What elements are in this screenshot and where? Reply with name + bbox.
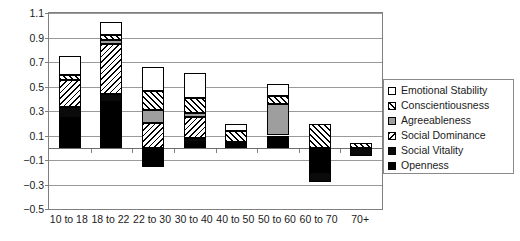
bar-group [299,13,341,209]
chart-legend: Emotional StabilityConscientiousnessAgre… [383,79,514,174]
bar-group [174,13,216,209]
y-axis-tick-label: 0.9 [29,32,44,43]
bar-segment [267,136,289,138]
bar-segment [225,124,247,130]
bar-segment [184,142,206,148]
y-axis-tick-label: 1.1 [29,8,44,19]
x-axis-label: 22 to 30 [133,214,171,225]
x-axis-label: 70+ [351,214,369,225]
legend-item[interactable]: Social Vitality [388,143,513,158]
bar-segment [225,142,247,144]
bar-segment [142,67,164,92]
y-axis-tick-label: 0.3 [29,106,44,117]
white-square-icon [388,87,396,95]
bar-segment [267,96,289,103]
bar-segment [309,148,331,173]
bar-segment [100,40,122,44]
bar-segment [59,107,81,118]
black-square-icon [388,162,396,170]
y-axis-tick-label: 0.5 [29,81,44,92]
bar-segment [100,22,122,35]
stacked-bar-chart: −0.5−0.3−0.10.10.30.50.70.91.1 10 to 181… [0,0,520,241]
plot-area: −0.5−0.3−0.10.10.30.50.70.91.1 [48,12,383,210]
legend-item-label: Social Vitality [401,145,463,156]
bar-group [216,13,258,209]
bar-group [132,13,174,209]
bar-segment [350,148,372,157]
bar-segment [225,144,247,146]
bar-segment [225,131,247,142]
x-axis-label: 10 to 18 [50,214,88,225]
x-axis-label: 18 to 22 [91,214,129,225]
y-axis-tick-label: −0.5 [23,204,44,215]
bar-segment [309,172,331,182]
bar-segment [267,137,289,148]
bar-group [91,13,133,209]
bar-segment [350,143,372,148]
y-axis-tick-label: −0.1 [23,155,44,166]
y-axis-tick-label: 0.7 [29,57,44,68]
stacked-bar[interactable] [142,13,164,209]
bar-segment [267,104,289,136]
bar-segment [184,98,206,114]
bar-segment [309,124,331,147]
legend-item-label: Emotional Stability [401,85,487,96]
stacked-bar[interactable] [100,13,122,209]
legend-item[interactable]: Emotional Stability [388,83,513,98]
legend-item-label: Openness [401,160,449,171]
bar-segment [184,117,206,138]
x-axis-label: 50 to 60 [258,214,296,225]
y-axis-tick-label: 0.1 [29,130,44,141]
legend-item-label: Agreeableness [401,115,471,126]
bar-segment [142,123,164,148]
bar-segment [59,75,81,80]
bar-segment [184,138,206,142]
bar-segment [100,94,122,103]
stacked-bar[interactable] [225,13,247,209]
gray-square-icon [388,117,396,125]
legend-item[interactable]: Social Dominance [388,128,513,143]
legend-item-label: Social Dominance [401,130,486,141]
stacked-bar[interactable] [184,13,206,209]
bar-segment [100,35,122,40]
x-axis-labels: 10 to 1818 to 2222 to 3030 to 4040 to 50… [48,214,383,232]
bar-series-group [49,13,382,209]
y-axis-tick-label: −0.3 [23,179,44,190]
bar-segment [184,113,206,117]
hatched-square-icon [388,102,396,110]
legend-item[interactable]: Agreeableness [388,113,513,128]
bar-segment [100,102,122,147]
x-axis-label: 40 to 50 [216,214,254,225]
legend-item[interactable]: Conscientiousness [388,98,513,113]
bar-segment [142,91,164,109]
bar-segment [142,110,164,123]
bar-segment [142,148,164,168]
bar-segment [59,56,81,76]
stacked-bar[interactable] [309,13,331,209]
stacked-bar[interactable] [267,13,289,209]
legend-item[interactable]: Openness [388,158,513,173]
bar-segment [100,44,122,94]
x-axis-label: 30 to 40 [175,214,213,225]
bar-segment [184,73,206,98]
bar-segment [59,118,81,147]
bar-group [49,13,91,209]
legend-item-label: Conscientiousness [401,100,489,111]
bar-segment [267,84,289,96]
x-axis-label: 60 to 70 [300,214,338,225]
hatched-square-icon [388,132,396,140]
bar-group [340,13,382,209]
y-axis-tick-mark [45,209,49,210]
bar-segment [59,80,81,107]
dark-square-icon [388,147,396,155]
stacked-bar[interactable] [59,13,81,209]
stacked-bar[interactable] [350,13,372,209]
bar-group [257,13,299,209]
